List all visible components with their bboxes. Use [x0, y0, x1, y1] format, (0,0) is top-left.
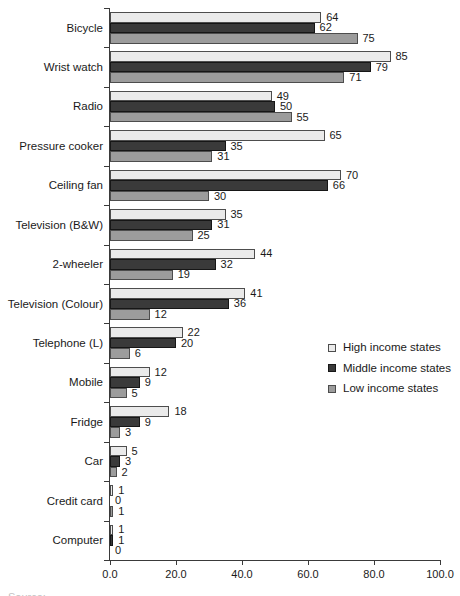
bar-value-label: 6 [135, 347, 141, 360]
category-label: Pressure cooker [0, 139, 103, 153]
bar [110, 151, 212, 162]
bar-value-label: 1 [118, 505, 124, 518]
chart-figure: 0.020.040.060.080.0100.0Bicycle646275Wri… [0, 0, 460, 596]
bar-value-label: 0 [115, 544, 121, 557]
bar [110, 327, 183, 338]
x-axis-tick-label: 0.0 [85, 568, 135, 581]
bar [110, 299, 229, 310]
category-label: Telephone (L) [0, 336, 103, 350]
y-axis-tick [104, 402, 109, 403]
bar [110, 191, 209, 202]
x-axis-tick-label: 20.0 [151, 568, 201, 581]
y-axis-tick [104, 126, 109, 127]
bar-value-label: 18 [174, 405, 186, 418]
category-label: Computer [0, 533, 103, 547]
category-label: Bicycle [0, 21, 103, 35]
bar-value-label: 25 [198, 229, 210, 242]
category-label: Ceiling fan [0, 178, 103, 192]
y-axis-tick [104, 205, 109, 206]
bar [110, 130, 325, 141]
category-label: Television (Colour) [0, 297, 103, 311]
category-label: Television (B&W) [0, 218, 103, 232]
plot-area: 0.020.040.060.080.0100.0Bicycle646275Wri… [0, 0, 460, 596]
bar [110, 338, 176, 349]
x-axis-line [109, 560, 441, 561]
bar [110, 270, 173, 281]
y-axis-tick [104, 245, 109, 246]
bar-value-label: 70 [346, 169, 358, 182]
bar-value-label: 9 [145, 416, 151, 429]
cut-off-caption: Source: [8, 591, 228, 596]
bar [110, 51, 391, 62]
bar-value-label: 5 [132, 387, 138, 400]
bar [110, 367, 150, 378]
bar-value-label: 2 [122, 466, 128, 479]
bar [110, 348, 130, 359]
category-label: 2-wheeler [0, 257, 103, 271]
bar [110, 485, 113, 496]
x-axis-tick [110, 561, 111, 565]
x-axis-tick-label: 60.0 [283, 568, 333, 581]
bar-value-label: 19 [178, 268, 190, 281]
y-axis-tick [104, 560, 109, 561]
category-label: Wrist watch [0, 60, 103, 74]
legend-swatch-icon [328, 364, 336, 372]
legend-item: Low income states [328, 382, 451, 395]
y-axis-tick [104, 8, 109, 9]
bar [110, 535, 113, 546]
legend-swatch-icon [328, 385, 336, 393]
bar [110, 467, 117, 478]
bar [110, 91, 272, 102]
category-label: Radio [0, 99, 103, 113]
bar [110, 33, 358, 44]
bar [110, 506, 113, 517]
bar-value-label: 12 [155, 366, 167, 379]
bar [110, 209, 226, 220]
y-axis-tick [104, 521, 109, 522]
bar [110, 141, 226, 152]
y-axis-tick [104, 47, 109, 48]
bar [110, 259, 216, 270]
bar-value-label: 20 [181, 337, 193, 350]
y-axis-tick [104, 284, 109, 285]
legend-item: Middle income states [328, 362, 451, 375]
bar [110, 427, 120, 438]
bar-value-label: 31 [217, 218, 229, 231]
bar [110, 72, 344, 83]
bar-value-label: 31 [217, 150, 229, 163]
legend-item: High income states [328, 341, 451, 354]
bar [110, 406, 169, 417]
bar [110, 525, 113, 536]
bar [110, 230, 193, 241]
x-axis-tick [308, 561, 309, 565]
y-axis-tick [104, 323, 109, 324]
bar [110, 170, 341, 181]
bar-value-label: 35 [231, 208, 243, 221]
bar-value-label: 3 [125, 426, 131, 439]
bar-value-label: 12 [155, 308, 167, 321]
x-axis-tick [440, 561, 441, 565]
legend-label: Low income states [343, 382, 438, 395]
bar [110, 388, 127, 399]
bar [110, 12, 321, 23]
x-axis-tick [176, 561, 177, 565]
x-axis-tick-label: 100.0 [415, 568, 460, 581]
bar [110, 23, 315, 34]
bar [110, 288, 245, 299]
category-label: Fridge [0, 415, 103, 429]
bar-value-label: 35 [231, 140, 243, 153]
bar-value-label: 41 [250, 287, 262, 300]
bar-value-label: 65 [330, 129, 342, 142]
bar [110, 62, 371, 73]
category-label: Car [0, 454, 103, 468]
bar-value-label: 32 [221, 258, 233, 271]
bar-value-label: 75 [363, 32, 375, 45]
bar-value-label: 36 [234, 297, 246, 310]
bar-value-label: 55 [297, 111, 309, 124]
category-label: Credit card [0, 494, 103, 508]
x-axis-tick-label: 40.0 [217, 568, 267, 581]
legend-label: High income states [343, 341, 441, 354]
bar [110, 112, 292, 123]
x-axis-tick-label: 80.0 [349, 568, 399, 581]
x-axis-tick [374, 561, 375, 565]
